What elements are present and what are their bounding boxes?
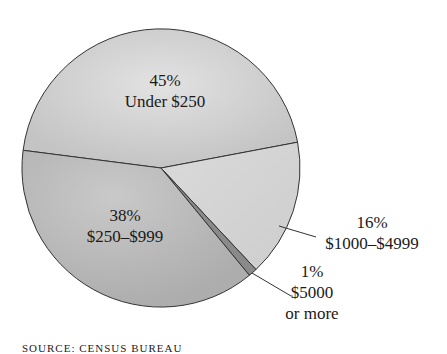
label-38: 38% $250–$999 [70,205,180,247]
label-1: 1% $5000 or more [282,261,342,324]
label-1-text-2: or more [282,303,342,324]
label-38-text: $250–$999 [70,226,180,247]
label-1-pct: 1% [282,261,342,282]
label-16-text: $1000–$4999 [312,233,432,254]
source-note: SOURCE: CENSUS BUREAU [22,342,182,354]
label-45-text: Under $250 [110,91,220,112]
label-16: 16% $1000–$4999 [312,212,432,254]
label-45-pct: 45% [110,70,220,91]
label-16-pct: 16% [312,212,432,233]
label-45: 45% Under $250 [110,70,220,112]
label-38-pct: 38% [70,205,180,226]
label-1-text-1: $5000 [282,282,342,303]
